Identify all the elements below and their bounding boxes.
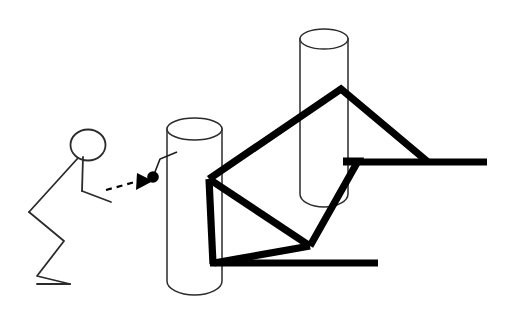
right-cylinder-body (300, 39, 348, 207)
stick-figure-torso (82, 157, 83, 191)
right-cylinder (300, 29, 348, 207)
drawing-canvas (0, 0, 512, 324)
left-vertical-diagonal (209, 179, 213, 264)
left-cylinder-top-ellipse (167, 118, 222, 140)
line-drawing-svg (0, 0, 512, 324)
right-cylinder-top-ellipse (300, 29, 348, 49)
pendulum-ball (147, 171, 159, 183)
